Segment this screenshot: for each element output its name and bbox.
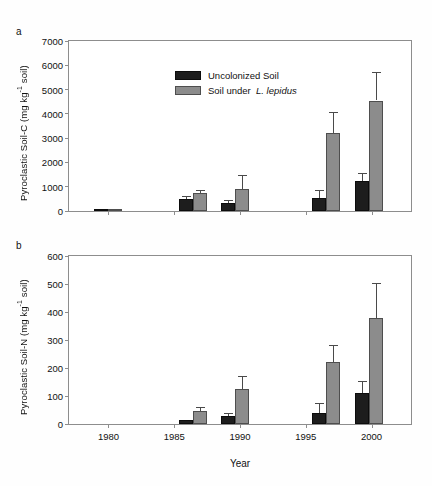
bar-lepidus bbox=[369, 101, 383, 212]
bar-lepidus bbox=[193, 193, 207, 211]
error-bar bbox=[242, 376, 243, 389]
plot-area-a: Uncolonized SoilSoil under L. lepidus 01… bbox=[68, 40, 412, 212]
y-axis-tick: 200 bbox=[47, 363, 69, 374]
x-axis-tick-mark bbox=[372, 211, 373, 215]
x-axis-tick-mark bbox=[108, 424, 109, 428]
y-axis-tick: 4000 bbox=[42, 108, 69, 119]
error-bar-cap bbox=[372, 283, 381, 284]
error-bar bbox=[319, 403, 320, 414]
error-bar-cap bbox=[315, 403, 324, 404]
y-axis-tick: 2000 bbox=[42, 157, 69, 168]
page-header-remnant bbox=[0, 0, 432, 12]
legend-item-lepidus: Soil under L. lepidus bbox=[175, 84, 297, 97]
x-axis-tick-mark bbox=[240, 424, 241, 428]
error-bar bbox=[376, 283, 377, 318]
x-axis-tick-label: 1985 bbox=[164, 431, 185, 442]
panel-letter-a: a bbox=[16, 26, 22, 37]
x-axis-tick-label: 1980 bbox=[98, 431, 119, 442]
y-axis-tick: 600 bbox=[47, 251, 69, 262]
error-bar-cap bbox=[224, 413, 233, 414]
x-axis-tick-mark bbox=[174, 211, 175, 215]
y-axis-label-a: Pyroclastic Soil-C (mg kg-1 soil) bbox=[16, 40, 29, 226]
y-axis-tick: 0 bbox=[58, 419, 69, 430]
y-axis-tick: 6000 bbox=[42, 60, 69, 71]
panel-letter-b: b bbox=[16, 240, 22, 251]
error-bar bbox=[319, 190, 320, 198]
error-bar-cap bbox=[329, 345, 338, 346]
error-bar bbox=[333, 112, 334, 133]
y-axis-tick: 1000 bbox=[42, 181, 69, 192]
bar-uncolonized bbox=[312, 198, 326, 211]
error-bar-cap bbox=[238, 175, 247, 176]
bar-uncolonized bbox=[355, 181, 369, 211]
error-bar bbox=[362, 173, 363, 181]
error-bar-cap bbox=[315, 190, 324, 191]
chart-legend: Uncolonized SoilSoil under L. lepidus bbox=[175, 69, 297, 99]
x-axis-tick-label: 2000 bbox=[361, 431, 382, 442]
bar-uncolonized bbox=[221, 416, 235, 424]
legend-label-uncolonized: Uncolonized Soil bbox=[208, 70, 279, 81]
bar-uncolonized bbox=[355, 393, 369, 424]
error-bar-cap bbox=[358, 173, 367, 174]
bar-lepidus bbox=[326, 362, 340, 424]
y-axis-tick: 400 bbox=[47, 307, 69, 318]
y-axis-tick: 500 bbox=[47, 279, 69, 290]
bar-uncolonized bbox=[179, 199, 193, 211]
bar-lepidus bbox=[326, 133, 340, 211]
chart-panel-b: b Pyroclastic Soil-N (mg kg-1 soil) 0100… bbox=[0, 236, 432, 486]
error-bar-cap bbox=[238, 376, 247, 377]
legend-swatch-uncolonized bbox=[175, 71, 201, 80]
bar-uncolonized bbox=[94, 209, 108, 211]
error-bar-cap bbox=[372, 72, 381, 73]
y-axis-label-b: Pyroclastic Soil-N (mg kg-1 soil) bbox=[16, 254, 29, 440]
bar-lepidus bbox=[108, 209, 122, 211]
error-bar bbox=[242, 175, 243, 189]
error-bar-cap bbox=[182, 196, 191, 197]
legend-label-lepidus: Soil under L. lepidus bbox=[208, 85, 297, 96]
x-axis-tick-mark bbox=[240, 211, 241, 215]
bar-lepidus bbox=[369, 318, 383, 424]
bar-uncolonized bbox=[179, 420, 193, 424]
error-bar-cap bbox=[196, 190, 205, 191]
y-axis-tick: 300 bbox=[47, 335, 69, 346]
error-bar-cap bbox=[329, 112, 338, 113]
error-bar bbox=[362, 381, 363, 393]
error-bar bbox=[333, 345, 334, 362]
x-axis-tick-label: 1990 bbox=[229, 431, 250, 442]
x-axis-tick-mark bbox=[108, 211, 109, 215]
bar-lepidus bbox=[193, 411, 207, 424]
bar-lepidus bbox=[235, 189, 249, 211]
x-axis-label: Year bbox=[68, 458, 412, 469]
y-axis-tick: 3000 bbox=[42, 133, 69, 144]
x-axis-tick-mark bbox=[174, 424, 175, 428]
x-axis-tick-label: 1995 bbox=[295, 431, 316, 442]
y-axis-tick: 100 bbox=[47, 391, 69, 402]
x-axis-tick-mark bbox=[306, 424, 307, 428]
bar-lepidus bbox=[235, 389, 249, 424]
error-bar-cap bbox=[358, 381, 367, 382]
y-axis-tick: 0 bbox=[58, 206, 69, 217]
error-bar bbox=[376, 72, 377, 101]
error-bar-cap bbox=[224, 200, 233, 201]
legend-item-uncolonized: Uncolonized Soil bbox=[175, 69, 297, 82]
x-axis-tick-mark bbox=[306, 211, 307, 215]
x-axis-tick-mark bbox=[372, 424, 373, 428]
chart-panel-a: a Pyroclastic Soil-C (mg kg-1 soil) Unco… bbox=[0, 14, 432, 236]
plot-area-b: 010020030040050060019801985199019952000 bbox=[68, 255, 412, 425]
bar-uncolonized bbox=[221, 203, 235, 211]
error-bar-cap bbox=[196, 407, 205, 408]
y-axis-tick: 5000 bbox=[42, 84, 69, 95]
bar-uncolonized bbox=[312, 413, 326, 424]
y-axis-tick: 7000 bbox=[42, 36, 69, 47]
legend-swatch-lepidus bbox=[175, 86, 201, 95]
